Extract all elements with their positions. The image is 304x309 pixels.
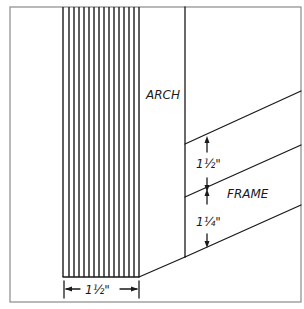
- woodworking-diagram: ARCH FRAME 1½" 1¼" 1½": [0, 0, 304, 309]
- frame-top-edge: [185, 91, 301, 144]
- arch-receding-edge: [139, 257, 185, 277]
- arch-grain-lines: [63, 7, 139, 277]
- frame-bottom-edge: [185, 205, 301, 257]
- lower-dimension-label: 1¼": [196, 215, 221, 229]
- frame-label: FRAME: [227, 187, 269, 201]
- arch-label: ARCH: [145, 88, 180, 102]
- diagram-border: [10, 7, 301, 302]
- bottom-dimension-label: 1½": [85, 283, 110, 297]
- upper-dimension-label: 1½": [196, 157, 221, 171]
